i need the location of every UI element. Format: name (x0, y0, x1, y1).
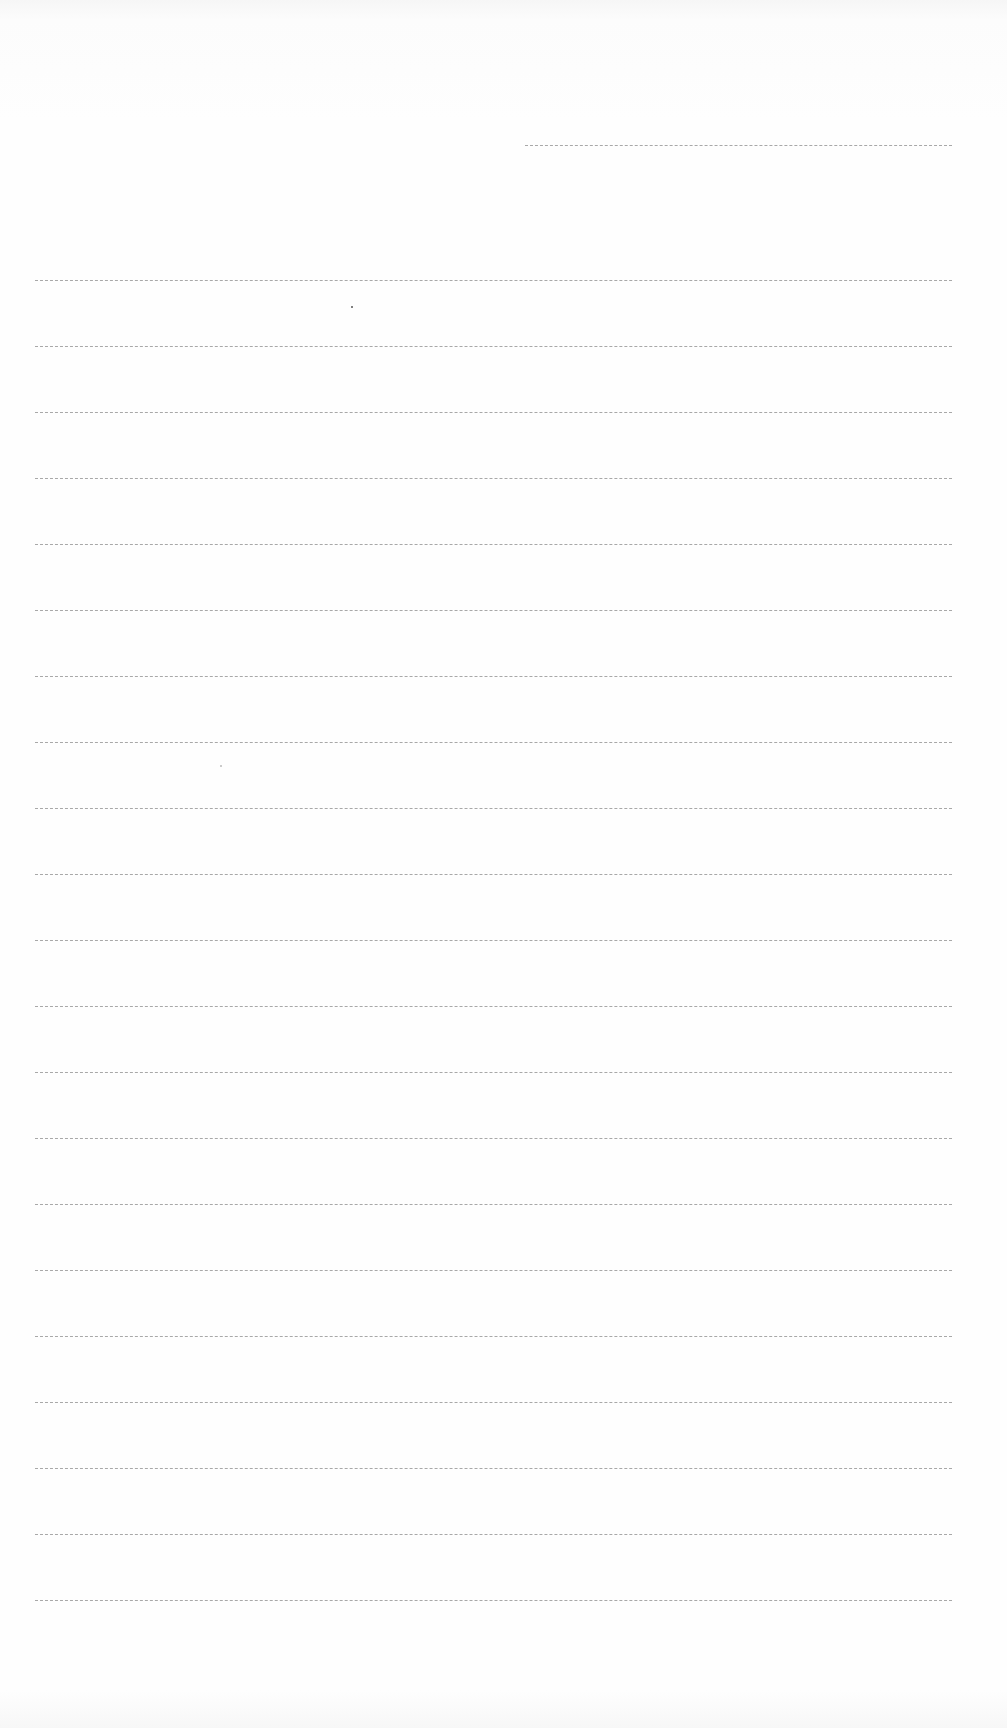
ruled-line (35, 1204, 952, 1205)
ruled-line (35, 544, 952, 545)
ruled-line (35, 808, 952, 809)
ruled-line (35, 1336, 952, 1337)
paper-speck (351, 306, 353, 308)
ruled-line (35, 610, 952, 611)
ruled-line (35, 412, 952, 413)
ruled-line (35, 346, 952, 347)
ruled-line (35, 1006, 952, 1007)
lined-paper-page (0, 0, 1007, 1728)
ruled-line (35, 1402, 952, 1403)
ruled-line (35, 478, 952, 479)
ruled-line (35, 742, 952, 743)
paper-speck (220, 765, 222, 767)
ruled-line (35, 874, 952, 875)
ruled-line (35, 1534, 952, 1535)
header-rule-line (525, 145, 952, 146)
ruled-line (35, 280, 952, 281)
ruled-line (35, 1468, 952, 1469)
ruled-line (35, 1072, 952, 1073)
ruled-line (35, 1138, 952, 1139)
ruled-line (35, 1600, 952, 1601)
ruled-line (35, 940, 952, 941)
ruled-line (35, 676, 952, 677)
ruled-line (35, 1270, 952, 1271)
